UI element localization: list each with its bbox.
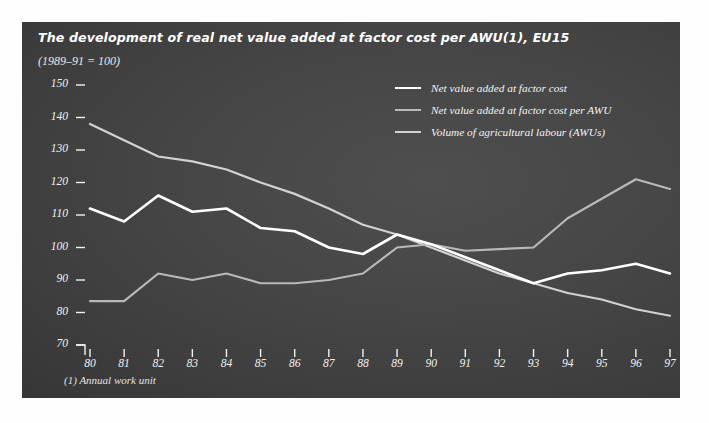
x-axis-tick-label: 85	[248, 357, 274, 369]
x-axis-tick-label: 80	[77, 357, 103, 369]
x-axis-tick-label: 82	[145, 357, 171, 369]
series-line-volume-of-agricultural-labour-awus	[90, 124, 670, 316]
x-axis-tick-label: 84	[213, 357, 239, 369]
chart-footnote: (1) Annual work unit	[64, 374, 156, 386]
x-axis-tick-label: 86	[282, 357, 308, 369]
figure-container: The development of real net value added …	[0, 0, 709, 423]
x-axis-tick-label: 93	[521, 357, 547, 369]
x-axis-tick-label: 92	[486, 357, 512, 369]
x-axis-tick-label: 90	[418, 357, 444, 369]
chart-plot-area	[22, 22, 680, 398]
y-axis-tick-label: 150	[34, 77, 68, 89]
x-axis-tick-label: 95	[589, 357, 615, 369]
axis-origin-elbow	[76, 345, 85, 355]
series-line-net-value-added-at-factor-cost-per-awu	[90, 179, 670, 301]
y-axis-tick-label: 140	[34, 110, 68, 122]
y-axis-tick-label: 110	[34, 207, 68, 219]
y-axis-tick-label: 90	[34, 272, 68, 284]
y-axis-tick-label: 120	[34, 175, 68, 187]
chart-panel: The development of real net value added …	[22, 22, 680, 398]
y-axis-tick-label: 70	[34, 337, 68, 349]
x-axis-tick-label: 94	[555, 357, 581, 369]
x-axis-tick-label: 91	[452, 357, 478, 369]
x-axis-tick-label: 96	[623, 357, 649, 369]
x-axis-tick-label: 87	[316, 357, 342, 369]
x-axis-tick-label: 88	[350, 357, 376, 369]
y-axis-tick-label: 100	[34, 240, 68, 252]
y-axis-tick-label: 80	[34, 305, 68, 317]
x-axis-tick-label: 81	[111, 357, 137, 369]
y-axis-tick-label: 130	[34, 142, 68, 154]
x-axis-tick-label: 89	[384, 357, 410, 369]
x-axis-tick-label: 83	[179, 357, 205, 369]
x-axis-tick-label: 97	[657, 357, 680, 369]
